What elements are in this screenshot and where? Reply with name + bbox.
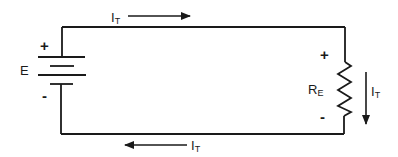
source-minus-sign: -: [42, 87, 47, 104]
load-label: RE: [308, 82, 323, 98]
current-top: IT: [111, 10, 190, 26]
current-right: IT: [366, 72, 381, 124]
series-circuit-diagram: E + - + - RE IT IT IT: [0, 0, 398, 157]
battery-symbol: [38, 57, 86, 84]
load-plus-sign: +: [320, 46, 329, 63]
current-bottom: IT: [125, 138, 201, 154]
current-right-label: IT: [371, 84, 381, 100]
current-top-label: IT: [111, 10, 121, 26]
circuit-wires: [61, 27, 345, 134]
load-minus-sign: -: [320, 108, 325, 125]
resistor-symbol: [338, 62, 351, 116]
source-label: E: [20, 63, 29, 78]
current-bottom-label: IT: [191, 138, 201, 154]
source-plus-sign: +: [40, 37, 49, 54]
